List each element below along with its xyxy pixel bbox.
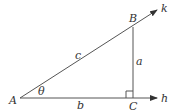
vertex-label-c: C	[129, 100, 138, 112]
ray-label-k: k	[161, 2, 168, 15]
vertex-label-a: A	[8, 94, 17, 107]
ray-label-h: h	[161, 92, 168, 105]
right-triangle-diagram: A B C c a b θ k h	[0, 0, 178, 112]
vertex-label-b: B	[128, 12, 137, 25]
side-label-c: c	[75, 49, 81, 62]
side-label-b: b	[77, 99, 84, 112]
right-angle-marker	[126, 91, 133, 98]
angle-label-theta: θ	[38, 85, 45, 98]
side-label-a: a	[136, 55, 143, 68]
